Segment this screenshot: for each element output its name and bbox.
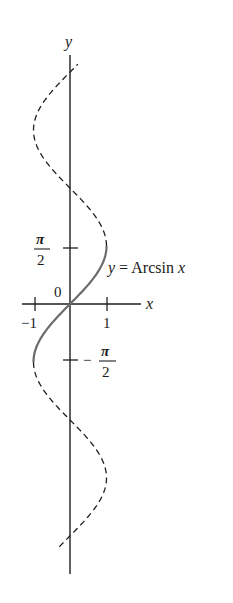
- svg-text:2: 2: [102, 364, 110, 380]
- x-tick-label-neg1: −1: [21, 315, 37, 331]
- y-tick-label-pi-over-2: π 2: [34, 231, 50, 268]
- svg-text:π: π: [101, 343, 110, 359]
- svg-text:2: 2: [37, 252, 45, 268]
- curve-label: y = Arcsin x: [106, 259, 185, 277]
- x-axis-label: x: [145, 295, 153, 312]
- svg-text:π: π: [36, 231, 45, 247]
- x-tick-label-pos1: 1: [103, 315, 111, 331]
- svg-text:−: −: [83, 352, 91, 368]
- origin-label: 0: [54, 284, 62, 300]
- y-tick-label-neg-pi-over-2: − π 2: [83, 343, 116, 380]
- arcsin-graph: y x 0 −1 1 π 2 − π 2 y = Arcsin x: [0, 0, 233, 603]
- y-axis-label: y: [63, 33, 73, 51]
